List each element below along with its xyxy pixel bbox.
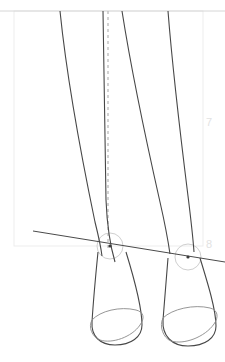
figure-drawing-svg (0, 0, 225, 362)
right-foot-outline (163, 258, 216, 346)
guide-number-7: 7 (206, 117, 212, 128)
right-leg-inner-contour (168, 11, 194, 252)
right-ankle-center-dot (186, 255, 189, 258)
left-leg-outer-contour (60, 11, 102, 256)
left-leg-inner-contour (103, 11, 115, 262)
guide-number-8: 8 (206, 239, 212, 250)
right-leg-outer-contour (122, 11, 170, 254)
drawing-canvas: 7 8 (0, 0, 225, 362)
left-ankle-center-dot (108, 244, 111, 247)
left-foot-sole-ellipse (90, 309, 143, 342)
right-foot-sole-ellipse (161, 307, 217, 342)
